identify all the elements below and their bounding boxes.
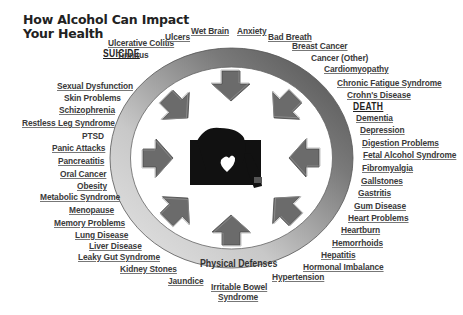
label-hepatitis: Hepatitis: [321, 250, 355, 260]
label-heartburn: Heartburn: [341, 225, 380, 235]
label-jaundice: Jaundice: [168, 276, 204, 286]
label-obesity: Obesity: [77, 181, 107, 191]
label-kidney-stones: Kidney Stones: [120, 264, 177, 274]
label-gastritis: Gastritis: [358, 188, 391, 198]
label-depression: Depression: [360, 125, 405, 135]
label-crohns: Crohn's Disease: [347, 90, 411, 100]
label-sexual-dysfunction: Sexual Dysfunction: [57, 81, 133, 91]
label-dementia: Dementia: [356, 113, 393, 123]
label-cancer-other: Cancer (Other): [311, 53, 368, 63]
label-memory-problems: Memory Problems: [54, 218, 125, 228]
label-ptsd: PTSD: [82, 131, 104, 141]
label-lung-disease: Lung Disease: [75, 230, 128, 240]
label-chronic-fatigue: Chronic Fatigue Syndrome: [337, 78, 442, 88]
label-breast-cancer: Breast Cancer: [292, 41, 348, 51]
label-panic-attacks: Panic Attacks: [52, 143, 105, 153]
label-oral-cancer: Oral Cancer: [60, 169, 106, 179]
label-gum-disease: Gum Disease: [354, 201, 406, 211]
label-pancreatitis: Pancreatitis: [58, 156, 104, 166]
label-schizophrenia: Schizophrenia: [59, 105, 115, 115]
label-liver-disease: Liver Disease: [89, 241, 142, 251]
label-hypertension: Hypertension: [272, 272, 324, 282]
label-hormonal-imbalance: Hormonal Imbalance: [303, 262, 384, 272]
label-skin-problems: Skin Problems: [64, 93, 121, 103]
label-gallstones: Gallstones: [361, 176, 403, 186]
physical-defenses-label: Physical Defenses: [200, 257, 277, 269]
label-cardiomyopathy: Cardiomyopathy: [324, 64, 389, 74]
label-digestion: Digestion Problems: [362, 138, 439, 148]
label-leaky-gut: Leaky Gut Syndrome: [78, 252, 160, 262]
label-metabolic-syndrome: Metabolic Syndrome: [40, 192, 120, 202]
label-hemorrhoids: Hemorrhoids: [332, 238, 383, 248]
label-syndrome: Syndrome: [218, 292, 258, 302]
death-heading: DEATH: [353, 101, 383, 112]
label-restless-leg: Restless Leg Syndrome: [22, 118, 115, 128]
label-anxiety: Anxiety: [237, 26, 267, 36]
label-fibromyalgia: Fibromyalgia: [362, 163, 413, 173]
label-ulcers: Ulcers: [165, 32, 190, 42]
label-menopause: Menopause: [69, 205, 114, 215]
label-tinnitus: Tinnitus: [117, 50, 149, 60]
label-heart-problems: Heart Problems: [348, 213, 409, 223]
label-wet-brain: Wet Brain: [191, 26, 229, 36]
label-irritable-bowel: Irritable Bowel: [211, 282, 267, 292]
label-fetal-alcohol: Fetal Alcohol Syndrome: [363, 150, 456, 160]
